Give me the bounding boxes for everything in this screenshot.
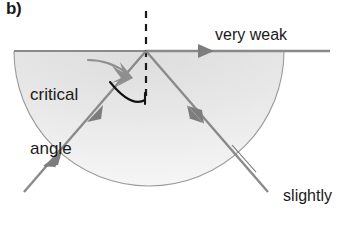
critical-angle-label: critical angle bbox=[30, 50, 78, 194]
critical-angle-label-line2: angle bbox=[30, 140, 78, 158]
reflected-ray-label-line1: slightly bbox=[244, 188, 332, 205]
very-weak-ray-label: very weak bbox=[215, 27, 287, 44]
reflected-ray-label: slightly stronger reflected ray bbox=[244, 154, 332, 226]
figure-container: b) critical angle very weak slightly str… bbox=[0, 0, 338, 226]
critical-angle-label-line1: critical bbox=[30, 86, 78, 104]
panel-letter: b) bbox=[6, 0, 21, 18]
